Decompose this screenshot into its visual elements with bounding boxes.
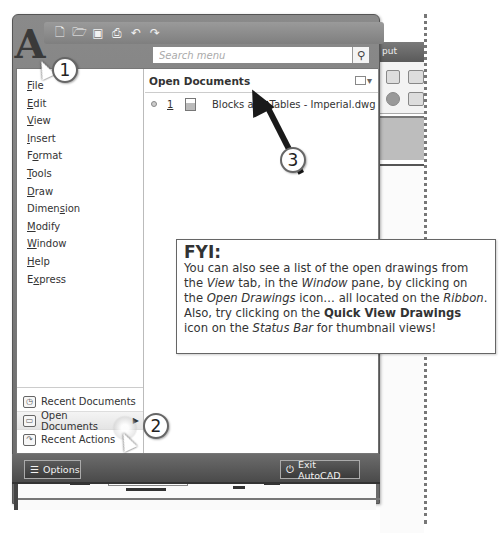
callout-1: 1 [52,57,78,83]
recent-actions-icon: ↷ [23,434,36,446]
fyi-text-segment: View [207,276,235,290]
menu-item-dimension[interactable]: Dimension [17,200,143,218]
menu-item-insert[interactable]: Insert [17,130,143,148]
ribbon-tool-icon[interactable] [408,92,424,106]
document-name: Blocks and Tables - Imperial.dwg [212,99,376,110]
exit-label: Exit AutoCAD [298,459,354,481]
fyi-text-segment: Status Bar [253,321,313,335]
application-button[interactable]: A [14,24,46,64]
recent-actions-label: Recent Actions [41,434,115,445]
ribbon-tool-icon[interactable] [386,92,400,106]
menu-left-column: File Edit View Insert Format Tools Draw … [17,69,144,453]
undo-icon[interactable]: ↶ [128,26,144,41]
ribbon-tool-icon[interactable] [408,70,424,84]
options-button[interactable]: ☰ Options [24,460,81,479]
quick-access-toolbar: 🗋 🗁 ▣ ⎙ ↶ ↷ [44,22,384,44]
redo-icon[interactable]: ↷ [147,26,163,41]
fyi-text-segment: for thumbnail views! [313,321,436,335]
search-menu-box: ⚲ [152,46,370,64]
menu-item-file[interactable]: File [17,77,143,95]
menu-item-format[interactable]: Format [17,147,143,165]
menu-item-draw[interactable]: Draw [17,183,143,201]
menu-item-window[interactable]: Window [17,235,143,253]
display-view-button[interactable]: ▾ [355,75,372,86]
menu-item-help[interactable]: Help [17,253,143,271]
fyi-text-segment: tab, in the [235,276,302,290]
dwg-file-icon [185,98,196,111]
fyi-note: FYI: You can also see a list of the open… [176,239,496,354]
fyi-text-segment: Ribbon [443,291,483,305]
document-number: 1 [167,99,175,110]
menu-footer: ☰ Options ⏻ Exit AutoCAD [12,454,380,484]
options-icon: ☰ [30,464,39,475]
fyi-title: FYI: [184,243,488,261]
ribbon-tool-icon[interactable] [386,70,400,84]
ribbon-gray-band [380,116,424,160]
print-icon[interactable]: ⎙ [109,26,125,41]
open-icon[interactable]: 🗁 [71,26,87,41]
exit-autocad-button[interactable]: ⏻ Exit AutoCAD [280,460,360,479]
ribbon-tab-fragment[interactable]: put [380,42,424,62]
new-icon[interactable]: 🗋 [52,26,68,41]
magnifier-icon[interactable]: ⚲ [352,47,369,63]
search-menu-input[interactable] [153,47,352,63]
fyi-text-segment: Open Drawings [207,291,296,305]
recent-documents-label: Recent Documents [41,396,136,407]
fyi-text-segment: Quick View Drawings [324,306,461,320]
open-documents-title: Open Documents [149,75,250,87]
fyi-text-segment: icon… all located on the [296,291,444,305]
save-icon[interactable]: ▣ [90,26,106,41]
fyi-text-segment: Window [302,276,348,290]
power-icon: ⏻ [286,464,294,476]
active-document-bullet-icon [151,101,157,107]
chevron-down-icon: ▾ [367,75,372,86]
callout-2: 2 [143,413,169,439]
open-documents-icon: ▭ [23,415,36,427]
fyi-text: You can also see a list of the open draw… [184,261,488,336]
menu-item-tools[interactable]: Tools [17,165,143,183]
menu-item-express[interactable]: Express [17,271,143,289]
menu-item-edit[interactable]: Edit [17,95,143,113]
ribbon-panel [380,62,424,114]
menu-item-modify[interactable]: Modify [17,218,143,236]
recent-documents-icon: ◷ [23,396,36,408]
menu-item-view[interactable]: View [17,112,143,130]
recent-documents-button[interactable]: ◷ Recent Documents [17,392,143,411]
options-label: Options [43,464,80,475]
menu-list: File Edit View Insert Format Tools Draw … [17,69,143,288]
callout-3: 3 [280,147,306,173]
fyi-text-segment: icon on the [184,321,253,335]
display-view-icon [355,76,366,85]
